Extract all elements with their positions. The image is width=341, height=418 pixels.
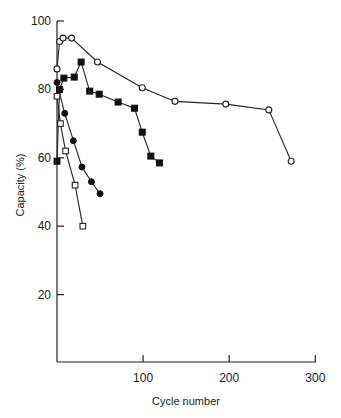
- open-circle-marker: [60, 35, 66, 41]
- open-square-marker: [54, 93, 60, 99]
- filled-square-marker: [139, 129, 145, 135]
- filled-square-marker: [148, 153, 154, 159]
- ticks: [57, 21, 315, 362]
- filled-circle-marker: [62, 110, 68, 116]
- series-open-circles: [54, 35, 294, 164]
- filled-square-marker: [131, 105, 137, 111]
- y-tick-label: 100: [31, 14, 51, 28]
- y-tick-label: 20: [38, 288, 52, 302]
- filled-circle-marker: [97, 191, 103, 197]
- open-circle-marker: [94, 59, 100, 65]
- filled-square-marker: [54, 158, 60, 164]
- filled-square-marker: [61, 75, 67, 81]
- x-axis-title: Cycle number: [152, 395, 220, 407]
- y-axis-title: Capacity (%): [14, 154, 26, 217]
- series-filled-squares: [54, 59, 162, 166]
- series-line: [57, 96, 83, 226]
- filled-square-marker: [71, 74, 77, 80]
- open-circle-marker: [266, 107, 272, 113]
- filled-circle-marker: [79, 164, 85, 170]
- open-square-marker: [80, 223, 86, 229]
- x-tick-label: 200: [219, 371, 239, 385]
- filled-square-marker: [87, 88, 93, 94]
- filled-square-marker: [115, 99, 121, 105]
- filled-square-marker: [96, 91, 102, 97]
- open-circle-marker: [54, 66, 60, 72]
- open-square-marker: [58, 121, 64, 127]
- open-circle-marker: [139, 85, 145, 91]
- open-circle-marker: [288, 158, 294, 164]
- filled-circle-marker: [54, 80, 60, 86]
- x-tick-label: 100: [133, 371, 153, 385]
- y-tick-label: 40: [38, 219, 52, 233]
- filled-circle-marker: [88, 179, 94, 185]
- open-circle-marker: [172, 98, 178, 104]
- filled-square-marker: [156, 160, 162, 166]
- open-square-marker: [63, 148, 69, 154]
- y-tick-label: 60: [38, 151, 52, 165]
- capacity-vs-cycle-chart: 10020030020406080100 Cycle number Capaci…: [0, 0, 341, 418]
- series-layer: [54, 35, 294, 229]
- open-square-marker: [72, 182, 78, 188]
- x-tick-label: 300: [305, 371, 325, 385]
- y-tick-label: 80: [38, 82, 52, 96]
- tick-labels: 10020030020406080100: [31, 14, 326, 385]
- open-circle-marker: [69, 35, 75, 41]
- filled-circle-marker: [70, 138, 76, 144]
- axes: [57, 21, 316, 362]
- open-circle-marker: [223, 101, 229, 107]
- filled-square-marker: [78, 59, 84, 65]
